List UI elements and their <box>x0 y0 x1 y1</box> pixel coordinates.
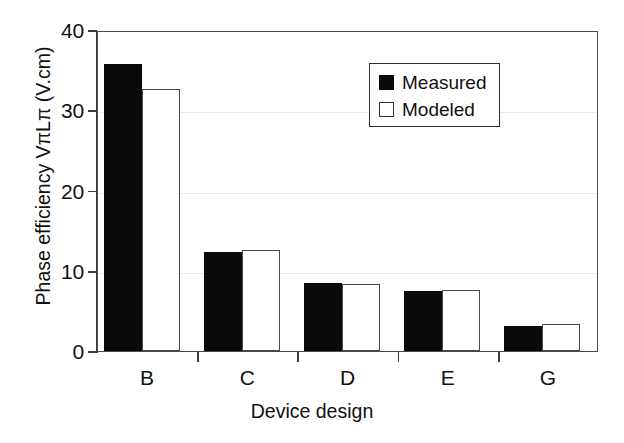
bar-measured-D <box>304 283 342 351</box>
y-tick-30 <box>88 110 97 112</box>
y-tick-label-0: 0 <box>40 341 84 362</box>
y-tick-40 <box>88 30 97 32</box>
bar-chart-figure: Phase efficiency VπLπ (V.cm) Measured <box>0 0 624 443</box>
x-tick-label-C: C <box>217 366 277 389</box>
y-tick-20 <box>88 191 97 193</box>
legend-label-modeled: Modeled <box>402 100 475 120</box>
bar-measured-C <box>204 252 242 351</box>
y-tick-label-30: 30 <box>40 100 84 121</box>
bar-measured-E <box>404 291 442 351</box>
plot-area: Measured Modeled <box>97 31 598 352</box>
legend-entry-measured: Measured <box>379 69 499 96</box>
x-axis-title: Device design <box>0 400 624 422</box>
x-tick-4 <box>498 352 500 362</box>
x-tick-label-D: D <box>318 366 378 389</box>
bar-measured-B <box>104 64 142 351</box>
legend-label-measured: Measured <box>402 73 487 93</box>
x-tick-1 <box>197 352 199 362</box>
legend-swatch-filled-icon <box>379 75 394 90</box>
legend-entry-modeled: Modeled <box>379 96 499 123</box>
x-tick-label-G: G <box>518 366 578 389</box>
y-tick-0 <box>88 351 97 353</box>
legend: Measured Modeled <box>369 63 500 127</box>
y-tick-label-40: 40 <box>40 20 84 41</box>
x-tick-label-E: E <box>418 366 478 389</box>
bar-modeled-B <box>142 89 180 351</box>
bar-measured-G <box>504 326 542 351</box>
bar-modeled-C <box>242 250 280 351</box>
y-tick-label-20: 20 <box>40 181 84 202</box>
bar-modeled-E <box>442 290 480 351</box>
x-tick-label-B: B <box>117 366 177 389</box>
x-tick-2 <box>297 352 299 362</box>
y-tick-10 <box>88 271 97 273</box>
legend-swatch-open-icon <box>379 102 394 117</box>
y-axis-title: Phase efficiency VπLπ (V.cm) <box>32 11 54 341</box>
bar-modeled-D <box>342 284 380 351</box>
y-tick-label-10: 10 <box>40 261 84 282</box>
bar-modeled-G <box>542 324 580 351</box>
x-tick-3 <box>398 352 400 362</box>
